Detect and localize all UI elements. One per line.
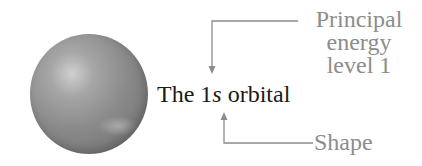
principal-energy-level-label: Principal energy level 1 <box>300 8 418 77</box>
principal-line-2: energy <box>300 31 418 54</box>
principal-arrow <box>212 21 298 68</box>
principal-line-1: Principal <box>300 8 418 31</box>
shape-label: Shape <box>314 131 373 154</box>
principal-arrowhead-icon <box>209 66 216 74</box>
shape-arrow <box>224 118 313 143</box>
shape-line-1: Shape <box>314 131 373 154</box>
shape-arrowhead-icon <box>221 112 228 120</box>
principal-line-3: level 1 <box>300 54 418 77</box>
